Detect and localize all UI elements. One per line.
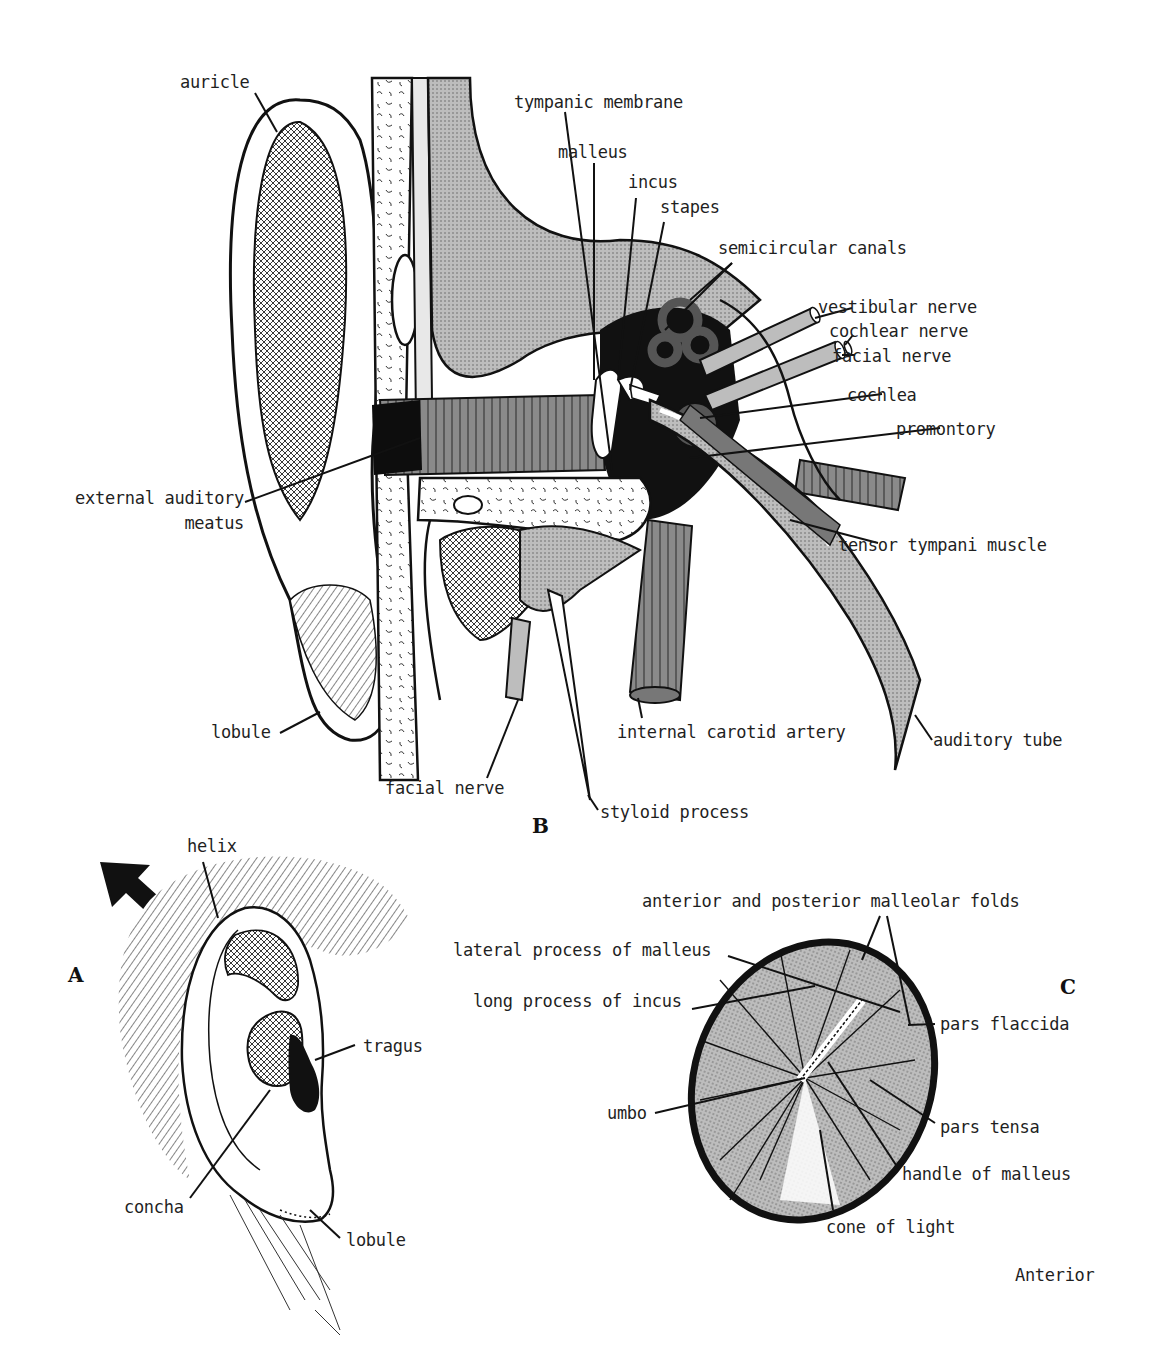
label-lobule-b: lobule [211,722,271,742]
label-stapes: stapes [660,197,720,217]
label-helix: helix [187,836,237,856]
label-internal-carotid-artery: internal carotid artery [617,722,846,742]
label-concha: concha [124,1197,184,1217]
label-incus: incus [628,172,678,192]
label-vestibular-nerve: vestibular nerve [818,297,977,317]
label-facial-nerve-upper: facial nerve [832,346,951,366]
label-pars-flaccida: pars flaccida [940,1014,1069,1034]
label-promontory: promontory [896,419,995,439]
label-facial-nerve-lower: facial nerve [385,778,504,798]
panel-letter-c: C [1060,975,1076,999]
label-lobule-a: lobule [346,1230,406,1250]
label-anterior-orientation: Anterior [1015,1265,1094,1285]
label-tragus: tragus [363,1036,423,1056]
label-umbo: umbo [607,1103,647,1123]
internal-carotid-artery-shape [630,520,692,700]
label-tensor-tympani-muscle: tensor tympani muscle [838,535,1047,555]
label-handle-of-malleus: handle of malleus [902,1164,1071,1184]
ear-anatomy-figure: auricle tympanic membrane malleus incus … [0,0,1152,1359]
styloid-process-shape [548,590,590,800]
label-external-auditory-meatus-line2: meatus [60,513,244,533]
label-malleus: malleus [558,142,628,162]
panel-letter-b: B [532,814,549,838]
panel-a-drawing [100,856,410,1335]
label-external-auditory-meatus-line1: external auditory [60,488,244,508]
panel-letter-a: A [68,963,84,987]
label-styloid-process: styloid process [600,802,749,822]
label-auditory-tube: auditory tube [933,730,1062,750]
ear-artwork [0,0,1152,1359]
label-semicircular-canals: semicircular canals [718,238,907,258]
label-long-process-of-incus: long process of incus [473,991,682,1011]
label-pars-tensa: pars tensa [940,1117,1039,1137]
label-lateral-process-of-malleus: lateral process of malleus [453,940,711,960]
label-tympanic-membrane: tympanic membrane [514,92,683,112]
label-cochlea: cochlea [847,385,917,405]
facial-nerve-tube [506,618,530,700]
label-cone-of-light: cone of light [826,1217,955,1237]
label-malleolar-folds: anterior and posterior malleolar folds [642,891,1020,911]
label-auricle: auricle [180,72,250,92]
label-cochlear-nerve: cochlear nerve [829,321,968,341]
